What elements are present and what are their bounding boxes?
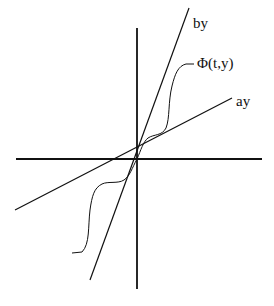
curve-phi-upper — [137, 64, 194, 159]
label-ay: ay — [236, 93, 251, 109]
diagram: by Φ(t,y) ay — [0, 0, 274, 306]
line-ay — [15, 98, 232, 210]
label-phi: Φ(t,y) — [197, 55, 233, 72]
line-by — [90, 8, 189, 280]
label-by: by — [193, 15, 209, 31]
